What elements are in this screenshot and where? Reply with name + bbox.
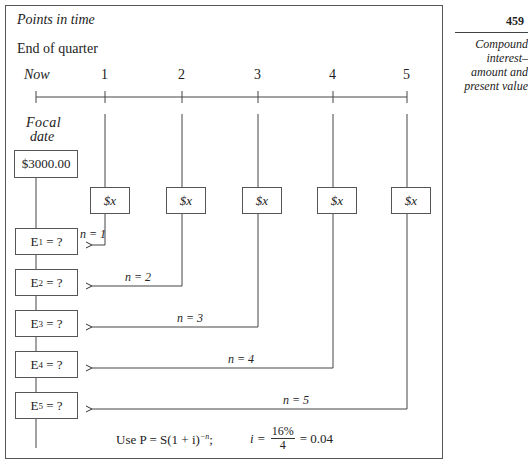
principal-box: $3000.00 bbox=[14, 150, 78, 178]
payment-box-5: $x bbox=[391, 187, 431, 214]
e-label: E bbox=[30, 357, 38, 373]
equivalent-box-4: E4 = ? bbox=[15, 351, 78, 378]
payment-box-3: $x bbox=[242, 187, 282, 214]
payment-box-4: $x bbox=[317, 187, 357, 214]
section-title-line1: Compound bbox=[448, 37, 528, 51]
equivalent-box-3: E3 = ? bbox=[15, 310, 78, 337]
n-label-3: n = 3 bbox=[177, 311, 203, 326]
section-title-line4: present value bbox=[448, 79, 528, 93]
rate-formula: i = 16%4 = 0.04 bbox=[250, 425, 333, 452]
axis-label: End of quarter bbox=[17, 41, 98, 57]
e-label: E bbox=[30, 316, 38, 332]
payment-value: $x bbox=[104, 193, 116, 209]
e-rest: = ? bbox=[43, 398, 63, 414]
payment-value: $x bbox=[331, 193, 343, 209]
rate-i-eq: i = bbox=[250, 431, 266, 447]
formula-semicolon: ; bbox=[209, 432, 213, 447]
tick-label-1: 1 bbox=[101, 67, 108, 83]
formula-use-text: Use P = S(1 + i) bbox=[116, 432, 200, 447]
payment-box-2: $x bbox=[166, 187, 206, 214]
rate-numerator: 16% bbox=[271, 425, 295, 439]
rate-result: = 0.04 bbox=[300, 431, 333, 447]
section-title-line2: interest– bbox=[448, 51, 528, 65]
e-rest: = ? bbox=[43, 316, 63, 332]
page-number: 459 bbox=[506, 14, 524, 29]
tick-label-4: 4 bbox=[329, 67, 336, 83]
equivalent-box-5: E5 = ? bbox=[15, 392, 78, 419]
formula-exponent: −n bbox=[200, 432, 209, 441]
e-rest: = ? bbox=[43, 357, 63, 373]
payment-box-1: $x bbox=[90, 187, 130, 214]
tick-label-5: 5 bbox=[403, 67, 410, 83]
rate-denominator: 4 bbox=[280, 439, 286, 452]
e-label: E bbox=[30, 275, 38, 291]
formula: Use P = S(1 + i)−n; bbox=[116, 432, 213, 448]
n-label-5: n = 5 bbox=[283, 393, 309, 408]
payment-value: $x bbox=[405, 193, 417, 209]
n-label-1: n = 1 bbox=[80, 227, 106, 242]
e-rest: = ? bbox=[43, 275, 63, 291]
diagram-title: Points in time bbox=[17, 12, 95, 28]
sidebar-rule bbox=[455, 32, 528, 33]
section-title-line3: amount and bbox=[448, 65, 528, 79]
n-label-2: n = 2 bbox=[125, 270, 151, 285]
principal-value: $3000.00 bbox=[22, 156, 71, 172]
e-rest: = ? bbox=[43, 234, 63, 250]
n-label-4: n = 4 bbox=[228, 352, 254, 367]
equivalent-box-1: E1 = ? bbox=[15, 228, 78, 255]
e-label: E bbox=[30, 234, 38, 250]
tick-label-2: 2 bbox=[178, 67, 185, 83]
e-label: E bbox=[30, 398, 38, 414]
payment-value: $x bbox=[256, 193, 268, 209]
rate-fraction: 16%4 bbox=[271, 425, 295, 452]
focal-label-line2: date bbox=[30, 129, 54, 145]
equivalent-box-2: E2 = ? bbox=[15, 269, 78, 296]
payment-value: $x bbox=[180, 193, 192, 209]
tick-label-now: Now bbox=[24, 67, 50, 83]
tick-label-3: 3 bbox=[254, 67, 261, 83]
